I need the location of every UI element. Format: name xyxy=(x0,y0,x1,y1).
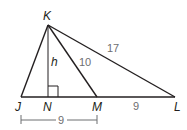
label-M: M xyxy=(92,100,102,114)
label-J: J xyxy=(14,100,22,114)
label-KM-length: 10 xyxy=(79,56,91,68)
label-ML-length: 9 xyxy=(133,100,139,112)
label-altitude-h: h xyxy=(51,55,58,69)
label-JM-dimension: 9 xyxy=(58,114,64,126)
label-N: N xyxy=(43,100,52,114)
right-angle-marker xyxy=(48,86,58,97)
label-KL-length: 17 xyxy=(107,42,119,54)
triangle-diagram: K J N M L h 10 17 9 9 xyxy=(0,0,187,130)
label-L: L xyxy=(174,100,181,114)
segment-KL xyxy=(48,25,175,97)
segment-KJ xyxy=(21,25,48,97)
label-K: K xyxy=(43,9,52,23)
